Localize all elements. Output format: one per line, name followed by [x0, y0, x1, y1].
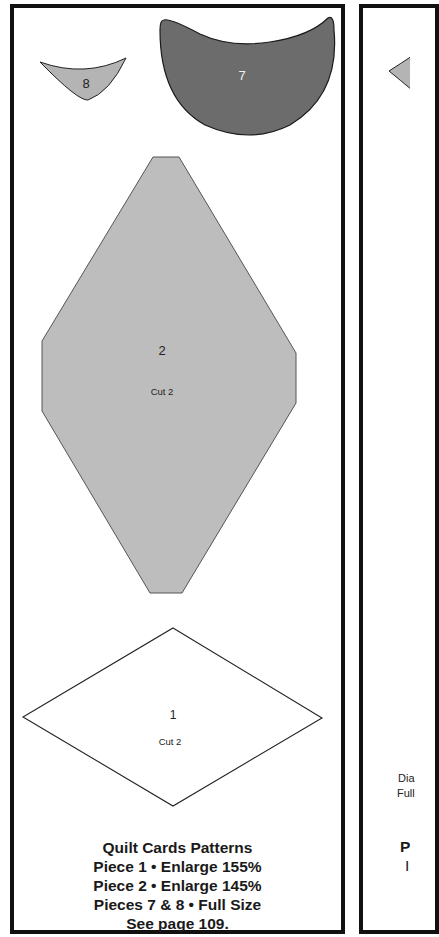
caption-piece-1: Piece 1 • Enlarge 155%	[10, 857, 345, 876]
piece-2-cut-note: Cut 2	[151, 386, 174, 397]
piece-1-cut-note: Cut 2	[159, 736, 182, 747]
right-page-caption-2: I	[405, 857, 409, 875]
caption-see-page: See page 109.	[10, 914, 345, 933]
piece-1-shape: 1 Cut 2	[23, 628, 322, 806]
caption-piece-2: Piece 2 • Enlarge 145%	[10, 876, 345, 895]
caption-pieces-7-8: Pieces 7 & 8 • Full Size	[10, 895, 345, 914]
piece-8-shape: 8	[40, 58, 126, 100]
piece-2-label: 2	[158, 343, 165, 358]
piece-7-label: 7	[238, 68, 245, 83]
piece-2-shape: 2 Cut 2	[42, 157, 296, 593]
right-page-text-1: Dia	[398, 772, 415, 784]
right-page-partial-piece	[389, 56, 410, 90]
caption-title: Quilt Cards Patterns	[10, 838, 345, 857]
piece-1-label: 1	[170, 708, 177, 722]
piece-7-shape: 7	[160, 18, 335, 136]
right-page-caption-1: P	[400, 838, 410, 856]
pattern-caption: Quilt Cards Patterns Piece 1 • Enlarge 1…	[10, 838, 345, 933]
right-page-text-2: Full	[397, 787, 415, 799]
piece-8-label: 8	[82, 76, 89, 91]
